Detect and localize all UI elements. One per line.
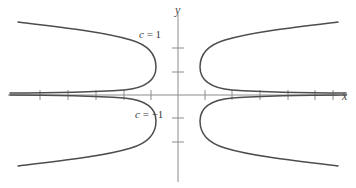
level-curve-figure: y x c = 1 c = −1	[0, 0, 356, 188]
plot-canvas	[0, 0, 356, 188]
contour-cneg1-right	[200, 95, 346, 166]
contour-label-value: = 1	[144, 28, 161, 40]
contour-label-value: = −1	[140, 108, 163, 120]
contour-label-c-negative: c = −1	[135, 108, 163, 120]
contour-c1-right	[200, 22, 346, 93]
contour-cneg1-left	[10, 95, 156, 166]
x-axis-label: x	[342, 89, 347, 104]
contour-label-c-positive: c = 1	[139, 28, 161, 40]
y-axis-label: y	[175, 3, 180, 18]
contour-c1-left	[10, 22, 156, 93]
